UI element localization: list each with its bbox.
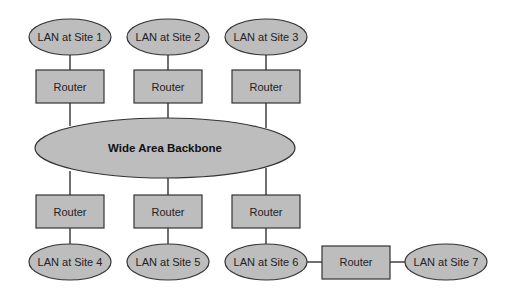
lan-site-3[interactable]: LAN at Site 3	[225, 19, 307, 55]
lan-site-4[interactable]: LAN at Site 4	[29, 244, 111, 280]
router-3[interactable]: Router	[232, 70, 300, 103]
lan-label: LAN at Site 2	[136, 31, 201, 43]
router-label: Router	[151, 206, 184, 218]
router-label: Router	[53, 81, 86, 93]
router-label: Router	[339, 256, 372, 268]
lan-label: LAN at Site 3	[234, 31, 299, 43]
lan-label: LAN at Site 7	[414, 256, 479, 268]
lan-site-1[interactable]: LAN at Site 1	[29, 19, 111, 55]
router-1[interactable]: Router	[36, 70, 104, 103]
router-label: Router	[249, 206, 282, 218]
lan-label: LAN at Site 6	[234, 256, 299, 268]
backbone-label: Wide Area Backbone	[108, 142, 222, 154]
router-label: Router	[151, 81, 184, 93]
router-label: Router	[249, 81, 282, 93]
lan-site-7[interactable]: LAN at Site 7	[405, 244, 487, 280]
wide-area-backbone[interactable]: Wide Area Backbone	[35, 118, 295, 178]
lan-site-6[interactable]: LAN at Site 6	[225, 244, 307, 280]
lan-site-5[interactable]: LAN at Site 5	[127, 244, 209, 280]
network-diagram: LAN at Site 1 LAN at Site 2 LAN at Site …	[0, 0, 516, 302]
lan-label: LAN at Site 1	[38, 31, 103, 43]
router-label: Router	[53, 206, 86, 218]
router-4[interactable]: Router	[36, 195, 104, 228]
lan-label: LAN at Site 4	[38, 256, 103, 268]
lan-site-2[interactable]: LAN at Site 2	[127, 19, 209, 55]
router-7[interactable]: Router	[322, 246, 390, 279]
router-2[interactable]: Router	[134, 70, 202, 103]
router-6[interactable]: Router	[232, 195, 300, 228]
lan-label: LAN at Site 5	[136, 256, 201, 268]
router-5[interactable]: Router	[134, 195, 202, 228]
